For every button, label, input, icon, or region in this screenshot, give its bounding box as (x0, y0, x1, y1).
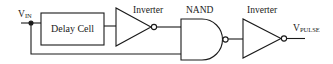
output-label: VPULSE (293, 23, 320, 35)
inverter1-bubble (151, 24, 156, 29)
circuit-schematic (0, 0, 333, 64)
inverter2-bubble (281, 36, 286, 41)
nand-label: NAND (186, 5, 213, 15)
inverter1-label: Inverter (133, 5, 163, 15)
delay-cell-label: Delay Cell (51, 24, 94, 34)
pulse-generator-diagram: VIN Delay Cell Inverter NAND Inverter VP… (0, 0, 333, 64)
inverter2-triangle (243, 19, 281, 58)
nand-bubble (223, 37, 228, 42)
nand-gate-body (181, 19, 222, 60)
inverter2-label: Inverter (247, 5, 277, 15)
input-label: VIN (18, 9, 32, 21)
